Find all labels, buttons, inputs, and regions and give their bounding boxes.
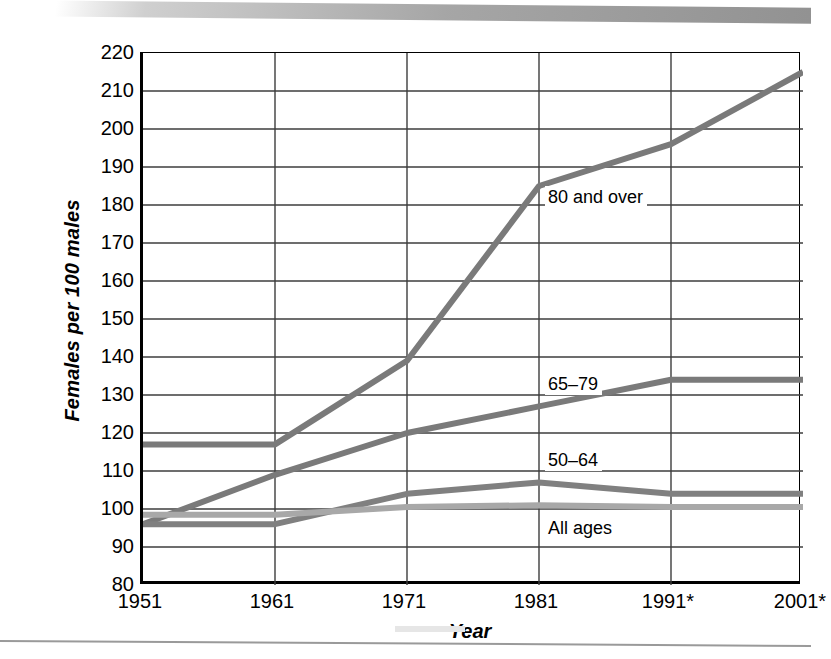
plot-area: 80 and over 65–79 50–64 All ages: [140, 52, 800, 584]
series-line-65-79: [143, 380, 803, 524]
y-tick-160: 160: [88, 270, 134, 290]
y-tick-220: 220: [88, 42, 134, 62]
y-tick-200: 200: [88, 118, 134, 138]
series-line-80-and-over: [143, 72, 803, 444]
x-tick-1981: 1981: [476, 590, 596, 613]
y-axis-title: Females per 100 males: [61, 146, 84, 476]
y-tick-90: 90: [88, 536, 134, 556]
y-tick-170: 170: [88, 232, 134, 252]
y-tick-180: 180: [88, 194, 134, 214]
y-tick-190: 190: [88, 156, 134, 176]
x-tick-1971: 1971: [344, 590, 464, 613]
series-line-all-ages: [143, 505, 803, 515]
x-tick-1961: 1961: [212, 590, 332, 613]
y-tick-150: 150: [88, 308, 134, 328]
x-axis-title: Year: [140, 620, 800, 643]
series-label-50-64: 50–64: [545, 449, 602, 472]
y-tick-120: 120: [88, 422, 134, 442]
scan-artifact-smudge: [395, 626, 465, 632]
y-tick-130: 130: [88, 384, 134, 404]
horizontal-gridlines: [143, 91, 803, 547]
y-axis-tick-labels: 220 210 200 190 180 170 160 150 140 130 …: [84, 52, 134, 584]
x-tick-1951: 1951: [80, 590, 200, 613]
y-tick-100: 100: [88, 498, 134, 518]
plot-svg: [143, 53, 803, 585]
y-tick-210: 210: [88, 80, 134, 100]
line-chart-females-per-100-males: Females per 100 males 220 210 200 190 18…: [40, 16, 831, 659]
x-axis-tick-labels: 1951 1961 1971 1981 1991* 2001*: [140, 590, 800, 620]
series-label-65-79: 65–79: [545, 373, 602, 396]
series-label-80-and-over: 80 and over: [545, 186, 647, 209]
x-tick-2001: 2001*: [740, 590, 831, 613]
series-label-all-ages: All ages: [545, 517, 616, 540]
y-tick-140: 140: [88, 346, 134, 366]
series-lines: [143, 72, 803, 524]
x-tick-1991: 1991*: [608, 590, 728, 613]
y-tick-110: 110: [88, 460, 134, 480]
